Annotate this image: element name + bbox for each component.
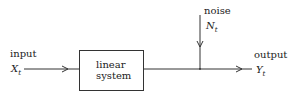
summing-junction: [199, 68, 201, 70]
diagram-lines: [0, 0, 293, 98]
linear-system-block: linear system: [79, 50, 144, 91]
input-label: input: [10, 48, 37, 59]
linear-system-label: linear system: [96, 59, 131, 81]
output-symbol: Yt: [256, 64, 265, 80]
noise-symbol: Nt: [206, 20, 218, 36]
system-line1: linear: [96, 59, 131, 70]
noise-label: noise: [204, 5, 231, 16]
system-line2: system: [96, 70, 131, 81]
input-symbol: Xt: [11, 63, 21, 79]
output-label: output: [254, 49, 287, 60]
